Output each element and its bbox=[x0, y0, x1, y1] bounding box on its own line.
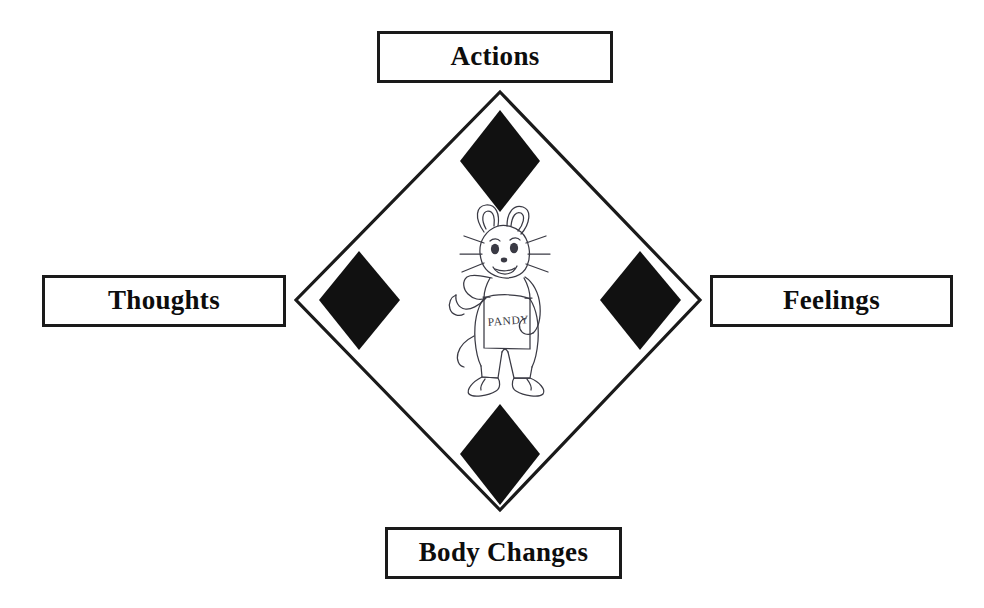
mouse-ear-left bbox=[477, 205, 498, 232]
mouse-tail bbox=[457, 336, 474, 367]
mouse-character-svg: PANDY bbox=[424, 198, 576, 400]
mouse-head bbox=[480, 225, 530, 278]
node-label-thoughts: Thoughts bbox=[108, 287, 220, 314]
node-box-actions[interactable]: Actions bbox=[377, 31, 613, 83]
mouse-eye-right bbox=[510, 243, 518, 253]
node-label-actions: Actions bbox=[450, 43, 539, 70]
mouse-ear-right-inner bbox=[511, 213, 524, 231]
mouse-shoe-detail-right bbox=[527, 379, 531, 390]
mouse-mouth-line bbox=[495, 268, 515, 271]
mouse-whisker-right-1 bbox=[526, 236, 546, 243]
mouse-leg-left bbox=[481, 352, 502, 378]
overalls-name-text: PANDY bbox=[487, 313, 529, 328]
mouse-ear-left-inner bbox=[483, 211, 495, 229]
diagram-canvas: PANDY Actions Thoughts Feelings Body Cha… bbox=[0, 0, 984, 608]
mouse-eyebrow-right bbox=[510, 238, 520, 240]
mouse-crotch bbox=[502, 349, 508, 352]
node-box-body-changes[interactable]: Body Changes bbox=[385, 527, 622, 579]
node-box-feelings[interactable]: Feelings bbox=[710, 275, 953, 327]
mouse-torso-right bbox=[530, 299, 538, 367]
mouse-nose bbox=[501, 258, 507, 263]
mouse-arm-left bbox=[456, 275, 492, 309]
node-label-body-changes: Body Changes bbox=[419, 539, 588, 566]
mouse-overalls-strap-left bbox=[484, 278, 490, 298]
mouse-eye-left bbox=[491, 244, 499, 254]
node-box-thoughts[interactable]: Thoughts bbox=[42, 275, 286, 327]
mouse-character-illustration: PANDY bbox=[424, 198, 576, 400]
mouse-whisker-right-3 bbox=[526, 264, 548, 272]
mouse-hand-left bbox=[449, 295, 464, 315]
mouse-overalls-strap-right bbox=[524, 278, 530, 299]
mouse-leg-right bbox=[508, 352, 532, 378]
mouse-whisker-left-1 bbox=[464, 236, 484, 243]
node-label-feelings: Feelings bbox=[783, 287, 880, 314]
mouse-whisker-left-3 bbox=[462, 263, 484, 272]
mouse-eyebrow-left bbox=[490, 239, 500, 241]
mouse-shoe-detail-left bbox=[481, 379, 485, 390]
mouse-torso-left bbox=[475, 298, 484, 366]
